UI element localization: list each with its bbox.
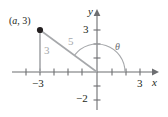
plotted-point [37, 27, 43, 33]
angle-theta-label: θ [115, 42, 120, 52]
vertical-leg-label: 3 [44, 45, 50, 56]
x-tick-label-3: 3 [137, 78, 143, 89]
x-axis-label: x [152, 77, 157, 88]
y-axis-label: y [88, 6, 93, 17]
y-axis [94, 9, 101, 110]
x-axis [12, 69, 159, 76]
y-tick-label-3: 3 [83, 24, 89, 35]
x-tick-label-neg3: −3 [32, 78, 44, 89]
y-tick-label-neg2: −2 [76, 93, 88, 104]
figure-canvas: x y −3 3 3 −2 (a, 3) 3 5 θ [0, 0, 168, 117]
point-label: (a, 3) [9, 16, 31, 26]
point-label-rest: , 3) [17, 15, 30, 26]
hypotenuse-label: 5 [68, 36, 74, 47]
